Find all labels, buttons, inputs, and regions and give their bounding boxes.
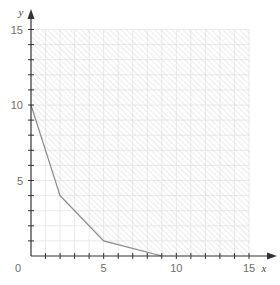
x-tick-label: 15: [243, 262, 255, 274]
origin-label: 0: [15, 262, 21, 274]
y-tick-label: 15: [11, 24, 23, 36]
x-axis-arrow-icon: [267, 253, 277, 260]
x-tick-label: 10: [170, 262, 182, 274]
shaded-region: [31, 30, 249, 257]
y-axis-arrow-icon: [28, 9, 35, 19]
y-tick-label: 10: [11, 99, 23, 111]
x-axis-label: x: [261, 262, 267, 274]
x-tick-label: 5: [101, 262, 107, 274]
chart: 51015510150xy: [0, 0, 280, 285]
y-tick-label: 5: [17, 175, 23, 187]
y-axis-label: y: [18, 6, 24, 18]
